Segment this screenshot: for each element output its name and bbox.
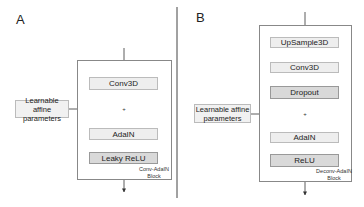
caption-line-2: Block — [134, 173, 174, 180]
block-caption-a: Conv-AdaIN Block — [134, 166, 174, 180]
panel-label-b: B — [196, 10, 205, 25]
adain-block: AdaIN — [89, 128, 158, 140]
caption-line-1: Deconv-AdaIN — [312, 168, 356, 175]
sum-icon: + — [299, 108, 311, 120]
panel-label-a: A — [16, 12, 25, 27]
block-caption-b: Deconv-AdaIN Block — [312, 168, 356, 182]
caption-line-2: Block — [312, 175, 356, 182]
learnable-affine-params: Learnable affine parameters — [15, 100, 69, 118]
conv3d-block: Conv3D — [89, 77, 158, 90]
adain-block: AdaIN — [270, 132, 339, 143]
dropout-block: Dropout — [270, 86, 339, 99]
sum-icon: + — [118, 103, 130, 115]
learnable-affine-params: Learnable affine parameters — [194, 104, 251, 123]
upsample3d-block: UpSample3D — [270, 37, 339, 48]
caption-line-1: Conv-AdaIN — [134, 166, 174, 173]
conv3d-block: Conv3D — [270, 62, 339, 73]
relu-block: ReLU — [270, 154, 339, 167]
leaky-relu-block: Leaky ReLU — [89, 152, 158, 164]
